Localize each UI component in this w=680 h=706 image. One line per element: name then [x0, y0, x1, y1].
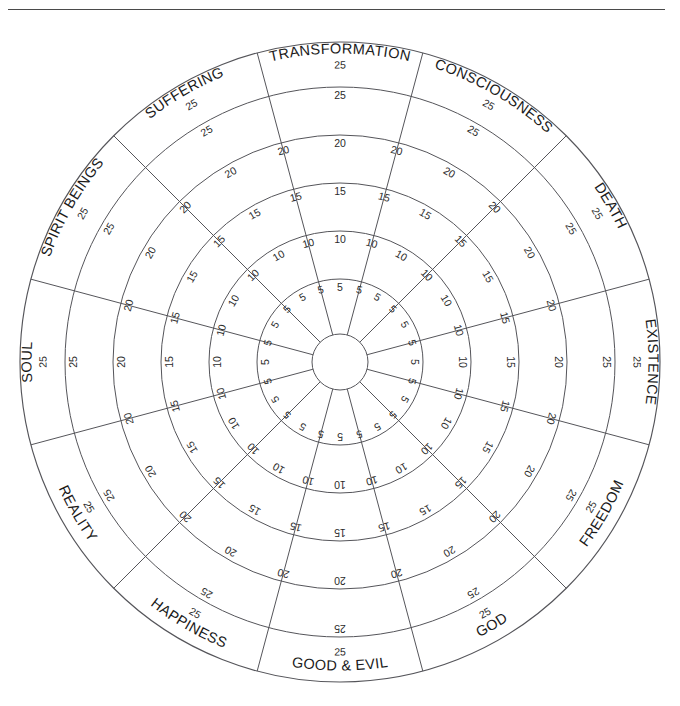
axis-label-text-existence: EXISTENCE [643, 318, 662, 406]
axis-label-spirit-beings: SPIRIT BEINGS [38, 155, 107, 259]
tick-label-good-evil-5: 5 [337, 431, 343, 443]
tick-label-soul-20: 20 [115, 356, 127, 368]
tick-label-god-5: 5 [372, 420, 383, 433]
axis-label-text-death: DEATH [591, 179, 630, 231]
tick-label-death-5: 5 [398, 319, 411, 330]
axis-outer-value-text-suffering: 25 [183, 96, 199, 112]
divider-tick-label-2-15: 15 [498, 310, 513, 325]
axis-label-happiness: HAPPINESS [148, 595, 229, 651]
tick-label-good-evil-10: 10 [334, 479, 346, 491]
axis-outer-value-death: 25 [590, 205, 606, 221]
divider-tick-label-0-15: 15 [377, 189, 392, 204]
divider-tick-label-11-5: 5 [316, 283, 325, 296]
divider-tick-label-8-15: 15 [167, 399, 182, 414]
polar-wheel-chart: 5101520255101520255101520255101520255101… [0, 0, 680, 706]
divider-tick-label-3-5: 5 [406, 377, 419, 386]
tick-label-soul-10: 10 [211, 356, 223, 368]
tick-label-existence-25: 25 [601, 356, 613, 368]
axis-label-text-soul: SOUL [18, 341, 35, 383]
axis-outer-value-spirit-beings: 25 [74, 205, 90, 221]
tick-label-reality-5: 5 [268, 394, 281, 405]
tick-label-transformation-15: 15 [334, 185, 346, 197]
axis-label-death: DEATH [591, 179, 630, 231]
tick-label-transformation-5: 5 [337, 281, 343, 293]
axis-outer-value-text-death: 25 [590, 205, 606, 221]
tick-label-good-evil-15: 15 [334, 527, 346, 539]
axis-outer-value-good-evil: 25 [334, 645, 346, 657]
axis-label-text-spirit-beings: SPIRIT BEINGS [38, 155, 107, 259]
tick-label-good-evil-20: 20 [334, 575, 346, 587]
tick-label-soul-5: 5 [259, 359, 271, 365]
divider-tick-label-6-10: 10 [301, 474, 316, 489]
divider-tick-label-6-5: 5 [316, 428, 325, 441]
axis-label-reality: REALITY [56, 483, 101, 545]
divider-tick-label-11-20: 20 [276, 143, 291, 158]
divider-tick-label-2-5: 5 [406, 338, 419, 347]
axis-label-text-happiness: HAPPINESS [148, 595, 229, 651]
axis-outer-value-text-spirit-beings: 25 [74, 205, 90, 221]
tick-label-existence-20: 20 [553, 356, 565, 368]
tick-label-consciousness-5: 5 [372, 290, 383, 303]
axis-label-text-reality: REALITY [56, 483, 101, 545]
axis-outer-value-transformation: 25 [334, 58, 346, 70]
divider-tick-label-11-10: 10 [301, 236, 316, 251]
axis-outer-value-text-transformation: 25 [334, 58, 346, 70]
divider-tick-label-5-10: 10 [365, 474, 380, 489]
axis-label-text-consciousness: CONSCIOUSNESS [433, 56, 556, 136]
axis-outer-value-text-soul: 25 [36, 356, 48, 368]
divider-tick-label-8-20: 20 [121, 411, 136, 426]
divider-tick-label-8-5: 5 [261, 377, 274, 386]
axis-label-freedom: FREEDOM [576, 477, 627, 549]
tick-label-freedom-5: 5 [398, 394, 411, 405]
axis-label-suffering: SUFFERING [142, 64, 226, 122]
divider-tick-label-3-20: 20 [544, 412, 559, 427]
divider-tick-label-9-5: 5 [261, 338, 274, 347]
divider-tick-label-9-10: 10 [214, 323, 229, 338]
axis-outer-value-soul: 25 [36, 356, 48, 368]
divider-tick-label-2-10: 10 [452, 323, 467, 338]
divider-tick-label-3-10: 10 [452, 387, 467, 402]
axis-label-text-transformation: TRANSFORMATION [268, 40, 412, 64]
tick-label-transformation-10: 10 [334, 233, 346, 245]
divider-tick-label-2-20: 20 [544, 298, 559, 313]
divider-tick-label-0-10: 10 [365, 236, 380, 251]
tick-label-happiness-5: 5 [297, 420, 308, 433]
axis-label-transformation: TRANSFORMATION [268, 40, 412, 64]
divider-tick-label-0-5: 5 [355, 283, 364, 296]
tick-label-soul-25: 25 [67, 356, 79, 368]
tick-label-existence-5: 5 [409, 359, 421, 365]
tick-label-transformation-20: 20 [334, 137, 346, 149]
axis-label-existence: EXISTENCE [643, 318, 662, 406]
axis-label-text-freedom: FREEDOM [576, 477, 627, 549]
divider-tick-label-11-15: 15 [288, 189, 303, 204]
axis-label-text-good-evil: GOOD & EVIL [291, 654, 389, 674]
tick-label-good-evil-25: 25 [334, 623, 346, 635]
axis-outer-value-consciousness: 25 [481, 96, 497, 112]
axis-outer-value-text-good-evil: 25 [334, 645, 346, 657]
divider-tick-label-5-5: 5 [355, 428, 364, 441]
axis-outer-value-suffering: 25 [183, 96, 199, 112]
axis-outer-value-text-existence: 25 [631, 356, 643, 368]
tick-label-spirit-beings-5: 5 [268, 319, 281, 330]
divider-tick-label-6-15: 15 [288, 520, 303, 535]
axis-label-consciousness: CONSCIOUSNESS [433, 56, 556, 136]
tick-label-soul-15: 15 [163, 356, 175, 368]
divider-tick-label-6-20: 20 [276, 566, 291, 581]
divider-tick-label-8-10: 10 [214, 387, 229, 402]
tick-label-suffering-5: 5 [297, 290, 308, 303]
axis-outer-value-text-consciousness: 25 [481, 96, 497, 112]
tick-label-transformation-25: 25 [334, 89, 346, 101]
divider-tick-label-0-20: 20 [390, 143, 405, 158]
center-hub-circle [312, 334, 368, 390]
divider-tick-label-9-20: 20 [121, 298, 136, 313]
wheel-svg: 5101520255101520255101520255101520255101… [0, 0, 680, 706]
axis-label-soul: SOUL [18, 341, 35, 383]
tick-label-existence-10: 10 [457, 356, 469, 368]
tick-label-existence-15: 15 [505, 356, 517, 368]
divider-tick-label-3-15: 15 [498, 399, 513, 414]
divider-tick-label-9-15: 15 [167, 310, 182, 325]
axis-label-text-suffering: SUFFERING [142, 64, 226, 122]
axis-outer-value-existence: 25 [631, 356, 643, 368]
axis-label-good-evil: GOOD & EVIL [291, 654, 389, 674]
divider-tick-label-5-20: 20 [389, 566, 404, 581]
